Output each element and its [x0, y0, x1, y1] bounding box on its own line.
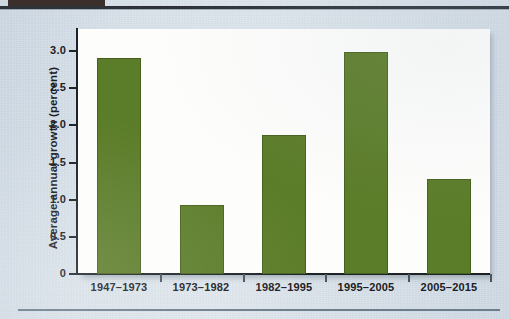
bar	[97, 58, 141, 274]
y-axis-tick-label: 2.5	[50, 82, 66, 93]
y-axis-tick-label: 1.5	[50, 157, 66, 168]
y-axis-tick-label: 1.0	[50, 194, 66, 205]
bar	[262, 135, 306, 274]
y-axis-tick	[69, 236, 77, 238]
y-axis-tick	[69, 199, 77, 201]
x-axis-tick	[490, 274, 492, 282]
bar-chart-figure: Average annual growth (percent) 00.51.01…	[0, 0, 509, 319]
x-axis-category-label: 2005–2015	[408, 281, 490, 293]
y-axis-tick-label: 0	[60, 268, 66, 279]
y-axis-tick	[69, 124, 77, 126]
scanned-figure-page: Average annual growth (percent) 00.51.01…	[0, 0, 509, 319]
y-axis-tick-label: 2.0	[50, 119, 66, 130]
bar	[344, 52, 388, 274]
y-axis-tick	[69, 87, 77, 89]
y-axis-tick	[69, 162, 77, 164]
bar	[427, 179, 471, 274]
y-axis-line	[76, 28, 78, 275]
y-axis-tick	[69, 273, 77, 275]
footer-rule	[18, 309, 500, 311]
x-axis-category-label: 1995–2005	[325, 281, 407, 293]
x-axis-category-label: 1982–1995	[243, 281, 325, 293]
x-axis-category-label: 1947–1973	[78, 281, 160, 293]
y-axis-tick-label: 0.5	[50, 231, 66, 242]
y-axis-tick-label: 3.0	[50, 45, 66, 56]
y-axis-tick	[69, 50, 77, 52]
bar	[180, 205, 224, 274]
x-axis-category-label: 1973–1982	[160, 281, 242, 293]
